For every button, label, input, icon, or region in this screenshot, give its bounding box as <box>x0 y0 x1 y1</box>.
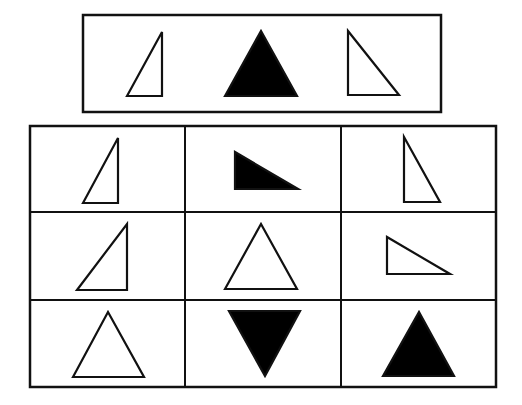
r3c1-equilateral-triangle-outline-icon <box>73 312 144 377</box>
answer-grid <box>30 126 496 387</box>
equilateral-triangle-filled-icon <box>225 31 297 96</box>
r2c1-right-triangle-outline-icon <box>77 224 127 290</box>
r2c2-equilateral-triangle-outline-icon <box>225 224 297 289</box>
r3c3-equilateral-triangle-filled-icon <box>383 312 454 376</box>
r1c2-right-triangle-filled-rotated-icon <box>235 152 298 189</box>
puzzle-canvas <box>0 0 522 405</box>
right-triangle-outline-icon <box>127 32 162 96</box>
right-triangle-outline-mirrored-icon <box>348 31 399 95</box>
r1c3-right-triangle-outline-mirrored-icon <box>404 137 440 202</box>
top-row-box <box>83 15 441 112</box>
r2c3-right-triangle-outline-rotated-icon <box>387 237 450 274</box>
r1c1-right-triangle-outline-icon <box>83 138 118 203</box>
r3c2-inverted-triangle-filled-icon <box>229 311 300 376</box>
